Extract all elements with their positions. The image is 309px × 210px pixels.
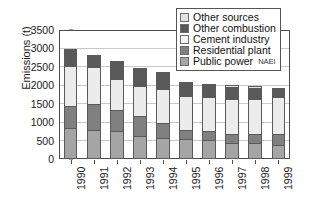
x-axis-tickmark <box>140 160 141 164</box>
legend-label: Public power <box>193 56 253 67</box>
x-axis-tick-1994: 1994 <box>168 167 179 190</box>
x-axis-tick-1998: 1998 <box>260 167 271 190</box>
bar-segment <box>225 143 239 159</box>
bar-segment <box>133 116 147 137</box>
y-axis-tick-2500: 2500 <box>14 62 54 73</box>
x-axis-tickmark <box>117 160 118 164</box>
bar-segment <box>133 86 147 117</box>
bar-segment <box>179 83 193 97</box>
bar-stack <box>272 88 286 159</box>
bar-segment <box>133 69 147 87</box>
bar-segment <box>202 85 216 98</box>
bar-stack <box>156 72 170 159</box>
bar-segment <box>64 66 78 107</box>
bar-segment <box>248 99 262 134</box>
legend-swatch-icon <box>180 57 189 66</box>
y-axis-tick-1000: 1000 <box>14 117 54 128</box>
legend-swatch-icon <box>180 13 189 22</box>
bar-stack <box>225 85 239 159</box>
bar-stack <box>133 68 147 159</box>
bar-segment <box>64 128 78 159</box>
bar-segment <box>87 130 101 159</box>
x-axis-tickmark <box>186 160 187 164</box>
bar-stack <box>248 86 262 159</box>
legend-label: Residential plant <box>193 45 271 56</box>
legend-label: Other sources <box>193 12 259 23</box>
legend-swatch-icon <box>180 46 189 55</box>
y-axis-tick-500: 500 <box>14 135 54 146</box>
bar-segment <box>110 62 124 80</box>
bar-group-1991[interactable] <box>87 30 101 159</box>
y-axis-tick-labels: 0500100015002000250030003500 <box>14 30 54 159</box>
x-axis-tickmark <box>94 160 95 164</box>
bar-group-1990[interactable] <box>64 30 78 159</box>
bar-stack <box>87 55 101 159</box>
bar-stack <box>202 84 216 159</box>
bar-segment <box>248 143 262 159</box>
y-axis-tick-3000: 3000 <box>14 43 54 54</box>
x-axis-tick-1999: 1999 <box>283 167 294 190</box>
legend-label: Other combustion <box>193 23 276 34</box>
bar-stack <box>64 49 78 159</box>
bar-segment <box>87 55 101 68</box>
x-axis-tickmark <box>209 160 210 164</box>
x-axis-tick-1993: 1993 <box>145 167 156 190</box>
bar-group-1993[interactable] <box>133 30 147 159</box>
x-axis-tickmark <box>278 160 279 164</box>
bar-segment <box>110 79 124 110</box>
x-axis-tickmark <box>163 160 164 164</box>
bar-segment <box>64 106 78 129</box>
chart-legend: Other sourcesOther combustionCement indu… <box>176 8 281 71</box>
bar-segment <box>225 87 239 100</box>
legend-swatch-icon <box>180 35 189 44</box>
x-axis-tickmark <box>71 160 72 164</box>
y-axis-tick-0: 0 <box>14 154 54 165</box>
x-axis-tick-1995: 1995 <box>191 167 202 190</box>
x-axis-tick-1996: 1996 <box>214 167 225 190</box>
legend-item-public-power[interactable]: Public powerNAEI <box>180 56 276 67</box>
bar-segment <box>156 123 170 138</box>
bar-stack <box>179 82 193 159</box>
bar-segment <box>156 138 170 159</box>
bar-segment <box>156 89 170 124</box>
x-axis-tick-1991: 1991 <box>99 167 110 190</box>
bar-segment <box>179 139 193 159</box>
y-axis-tick-2000: 2000 <box>14 80 54 91</box>
legend-swatch-icon <box>180 24 189 33</box>
bar-segment <box>202 140 216 159</box>
bar-segment <box>179 96 193 131</box>
x-axis-tickmark <box>255 160 256 164</box>
bar-segment <box>87 67 101 105</box>
bar-segment <box>110 110 124 132</box>
y-axis-tick-1500: 1500 <box>14 98 54 109</box>
x-axis-tick-labels: 1990199119921993199419951996199719981999 <box>59 160 290 208</box>
y-axis-tick-3500: 3500 <box>14 25 54 36</box>
legend-label: Cement industry <box>193 34 269 45</box>
bar-segment <box>133 136 147 159</box>
bar-segment <box>110 131 124 159</box>
x-axis-tick-1997: 1997 <box>237 167 248 190</box>
bar-group-1994[interactable] <box>156 30 170 159</box>
bar-segment <box>272 134 286 147</box>
bar-group-1992[interactable] <box>110 30 124 159</box>
bar-segment <box>156 73 170 90</box>
bar-segment <box>64 49 78 66</box>
bar-segment <box>272 97 286 134</box>
bar-segment <box>225 99 239 134</box>
bar-segment <box>272 145 286 159</box>
emissions-stacked-bar-chart: Emissions (t) 05001000150020002500300035… <box>0 0 309 210</box>
bar-segment <box>248 88 262 100</box>
x-axis-tick-1992: 1992 <box>122 167 133 190</box>
naei-watermark: NAEI <box>258 58 276 66</box>
bar-stack <box>110 61 124 159</box>
x-axis-tickmark <box>232 160 233 164</box>
bar-segment <box>202 97 216 131</box>
bar-segment <box>87 104 101 130</box>
x-axis-tick-1990: 1990 <box>76 167 87 190</box>
